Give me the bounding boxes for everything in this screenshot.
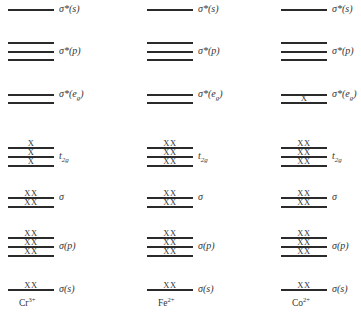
level-label-sigma: σ [198,192,203,202]
electron-occupancy: XX [8,247,54,255]
electron-occupancy: X [281,94,327,102]
column-fe: σ*(s)σ*(p)σ*(eg)XXXXXXt2gXXXXσXXXXXXσ(p)… [147,0,227,312]
electron-occupancy: XX [281,229,327,237]
energy-level-sigma-star-eg [8,94,54,96]
electron-occupancy: XX [281,157,327,165]
electron-occupancy: XX [8,281,54,289]
electron-occupancy: XX [8,238,54,246]
electron-occupancy: XX [281,148,327,156]
electron-occupancy: XX [147,157,193,165]
level-label-sigma: σ [59,192,64,202]
level-label-t2g: t2g [59,151,69,165]
level-label-t2g: t2g [198,151,208,165]
electron-occupancy: XX [147,229,193,237]
level-label-sigma-star-eg: σ*(eg) [332,89,357,103]
level-label-sigma-p: σ(p) [198,241,215,251]
level-label-sigma-star-p: σ*(p) [59,46,81,56]
level-label-sigma-star-s: σ*(s) [59,4,79,14]
level-label-sigma-star-p: σ*(p) [332,46,354,56]
electron-occupancy: XX [281,238,327,246]
level-label-sigma-star-eg: σ*(eg) [59,89,84,103]
level-label-sigma-s: σ(s) [59,284,74,294]
electron-occupancy: XX [281,139,327,147]
ion-label: Co2+ [292,296,310,308]
level-label-sigma-s: σ(s) [198,284,213,294]
energy-level-sigma-star-eg [8,102,54,104]
column-cr: σ*(s)σ*(p)σ*(eg)XXXt2gXXXXσXXXXXXσ(p)XXσ… [8,0,88,312]
energy-level-sigma-star-p [8,51,54,53]
ion-label: Cr3+ [19,296,35,308]
electron-occupancy: XX [8,189,54,197]
energy-level-sigma-star-s [147,9,193,11]
energy-level-sigma-star-p [281,59,327,61]
energy-level-sigma-star-eg [147,94,193,96]
electron-occupancy: XX [147,198,193,206]
electron-occupancy: XX [281,247,327,255]
energy-level-sigma-star-p [8,42,54,44]
electron-occupancy: XX [281,198,327,206]
electron-occupancy: XX [281,281,327,289]
electron-occupancy: X [8,157,54,165]
electron-occupancy: XX [8,198,54,206]
level-label-t2g: t2g [332,151,342,165]
level-label-sigma-star-s: σ*(s) [332,4,352,14]
electron-occupancy: XX [147,281,193,289]
column-co: σ*(s)σ*(p)Xσ*(eg)XXXXXXt2gXXXXσXXXXXXσ(p… [281,0,361,312]
electron-occupancy: XX [147,139,193,147]
energy-level-sigma-star-p [147,42,193,44]
electron-occupancy: XX [281,189,327,197]
electron-occupancy: X [8,148,54,156]
level-label-sigma-star-s: σ*(s) [198,4,218,14]
electron-occupancy: XX [147,189,193,197]
level-label-sigma: σ [332,192,337,202]
energy-level-sigma-star-p [147,59,193,61]
energy-level-sigma-star-p [281,42,327,44]
energy-level-sigma-star-p [281,51,327,53]
electron-occupancy: X [8,139,54,147]
electron-occupancy: XX [8,229,54,237]
level-label-sigma-p: σ(p) [332,241,349,251]
energy-level-sigma-star-p [147,51,193,53]
level-label-sigma-star-eg: σ*(eg) [198,89,223,103]
electron-occupancy: XX [147,238,193,246]
energy-level-sigma-star-s [281,9,327,11]
energy-level-sigma-star-eg [147,102,193,104]
level-label-sigma-p: σ(p) [59,241,76,251]
level-label-sigma-star-p: σ*(p) [198,46,220,56]
ion-label: Fe2+ [158,296,174,308]
energy-level-sigma-star-p [8,59,54,61]
electron-occupancy: XX [147,247,193,255]
electron-occupancy: XX [147,148,193,156]
level-label-sigma-s: σ(s) [332,284,347,294]
energy-level-sigma-star-s [8,9,54,11]
